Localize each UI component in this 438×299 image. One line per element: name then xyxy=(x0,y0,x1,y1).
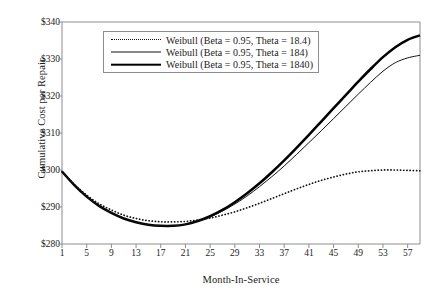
legend-swatch-thin-line-icon xyxy=(109,46,163,58)
legend: Weibull (Beta = 0.95, Theta = 18.4) Weib… xyxy=(103,31,319,73)
series-line-1 xyxy=(62,55,420,226)
legend-swatch-thick-line-icon xyxy=(109,59,163,71)
legend-label-0: Weibull (Beta = 0.95, Theta = 18.4) xyxy=(163,35,311,46)
legend-label-2: Weibull (Beta = 0.95, Theta = 1840) xyxy=(163,59,313,70)
legend-item-2: Weibull (Beta = 0.95, Theta = 1840) xyxy=(109,59,314,71)
legend-item-1: Weibull (Beta = 0.95, Theta = 184) xyxy=(109,46,314,58)
chart-container: Cumulative Cost per Repair Month-In-Serv… xyxy=(0,0,438,299)
x-axis-ticks xyxy=(62,244,408,248)
legend-label-1: Weibull (Beta = 0.95, Theta = 184) xyxy=(163,47,308,58)
y-axis-ticks xyxy=(58,22,62,244)
legend-swatch-dotted-line-icon xyxy=(109,34,163,46)
legend-item-0: Weibull (Beta = 0.95, Theta = 18.4) xyxy=(109,34,314,46)
